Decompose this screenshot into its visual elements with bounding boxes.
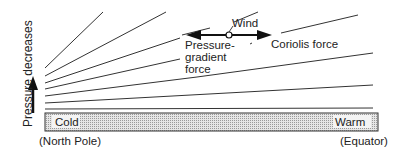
pgf-label-2: gradient — [185, 51, 227, 63]
isobar-diagram — [0, 0, 396, 152]
warm-label: Warm — [335, 116, 365, 128]
surface-bar — [45, 113, 378, 131]
equator-label: (Equator) — [340, 135, 388, 147]
north-pole-label: (North Pole) — [39, 135, 101, 147]
axis-label: Pressure decreases — [21, 20, 35, 127]
cold-label: Cold — [55, 116, 79, 128]
pgf-label-3: force — [185, 63, 211, 75]
coriolis-label: Coriolis force — [271, 38, 338, 50]
wind-vector — [186, 26, 272, 40]
pgf-label-1: Pressure- — [185, 39, 235, 51]
wind-label: Wind — [232, 17, 258, 29]
